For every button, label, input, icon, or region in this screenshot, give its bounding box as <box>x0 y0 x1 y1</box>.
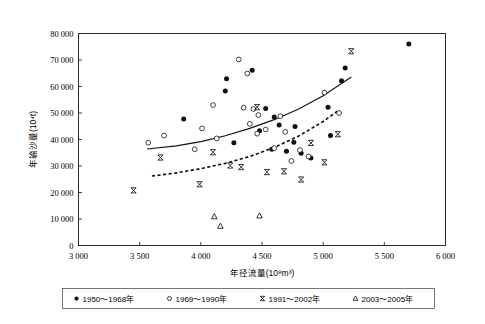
y-tick-label: 70 000 <box>50 55 73 65</box>
data-point <box>181 117 186 122</box>
y-tick-label: 20 000 <box>50 188 73 198</box>
data-point <box>212 214 218 219</box>
data-point <box>256 113 261 118</box>
legend-marker-filled-circle <box>74 296 78 300</box>
legend-item-label: 1991～2002年 <box>269 294 321 304</box>
data-point <box>284 149 289 154</box>
legend-item-3[interactable]: 1991～2002年 <box>260 294 320 304</box>
data-point <box>200 126 205 131</box>
data-point <box>283 129 288 134</box>
trendline-upper-trend <box>147 77 351 149</box>
x-axis-tick-labels: 3 0003 5004 0004 5005 0005 5006 000 <box>69 251 455 261</box>
data-point <box>281 169 286 174</box>
x-tick-label: 5 500 <box>375 251 394 261</box>
data-point <box>406 42 411 47</box>
legend-marker-open-circle <box>167 296 171 300</box>
legend-item-2[interactable]: 1969～1990年 <box>167 294 227 304</box>
x-tick-label: 3 500 <box>130 251 149 261</box>
data-point <box>326 105 331 110</box>
data-point <box>239 164 244 169</box>
series-2 <box>146 57 342 163</box>
series-3 <box>131 49 354 193</box>
data-point <box>322 160 327 165</box>
data-point <box>308 140 313 145</box>
y-tick-label: 60 000 <box>50 82 73 92</box>
x-axis-ticks <box>140 242 385 246</box>
y-tick-label: 80 000 <box>50 29 73 39</box>
chart-figure: 010 00020 00030 00040 00050 00060 00070 … <box>0 0 485 324</box>
y-tick-label: 30 000 <box>50 161 73 171</box>
legend-item-label: 2003～2005年 <box>362 294 414 304</box>
data-point <box>247 121 252 126</box>
y-axis-ticks <box>79 34 83 246</box>
series-4 <box>212 213 263 228</box>
data-point <box>146 140 151 145</box>
data-point <box>278 114 283 119</box>
plot-frame <box>79 34 446 246</box>
plot-area-border <box>79 34 446 246</box>
legend: 1950～1968年1969～1990年1991～2002年2003～2005年 <box>63 289 435 309</box>
data-point <box>245 71 250 76</box>
data-point <box>322 90 327 95</box>
series-1 <box>181 42 411 161</box>
data-point <box>263 127 268 132</box>
data-point <box>224 76 229 81</box>
data-point <box>289 159 294 164</box>
data-points <box>131 42 411 229</box>
x-tick-label: 4 500 <box>252 251 271 261</box>
scatter-plot-svg: 010 00020 00030 00040 00050 00060 00070 … <box>0 0 485 324</box>
data-point <box>223 89 228 94</box>
data-point <box>335 132 340 137</box>
data-point <box>162 133 167 138</box>
data-point <box>250 68 255 73</box>
data-point <box>337 111 342 116</box>
data-point <box>298 148 303 153</box>
data-point <box>211 103 216 108</box>
data-point <box>272 114 277 119</box>
data-point <box>231 140 236 145</box>
x-axis-title: 年径流量(10⁸m³) <box>230 268 295 278</box>
x-tick-label: 5 000 <box>314 251 333 261</box>
data-point <box>158 155 163 160</box>
x-tick-label: 3 000 <box>69 251 88 261</box>
legend-item-label: 1969～1990年 <box>176 294 228 304</box>
y-tick-label: 10 000 <box>50 214 73 224</box>
data-point <box>214 136 219 141</box>
y-tick-label: 50 000 <box>50 108 73 118</box>
data-point <box>277 122 282 127</box>
data-point <box>339 78 344 83</box>
data-point <box>228 163 233 168</box>
data-point <box>197 182 202 187</box>
data-point <box>343 65 348 70</box>
data-point <box>291 140 296 145</box>
data-point <box>349 49 354 54</box>
y-tick-label: 0 <box>69 241 73 251</box>
data-point <box>299 177 304 182</box>
data-point <box>328 133 333 138</box>
data-point <box>131 188 136 193</box>
x-tick-label: 6 000 <box>436 251 455 261</box>
data-point <box>192 147 197 152</box>
data-point <box>255 131 260 136</box>
data-point <box>236 57 241 62</box>
data-point <box>210 150 215 155</box>
data-point <box>272 146 277 151</box>
data-point <box>293 124 298 129</box>
legend-item-1[interactable]: 1950～1968年 <box>74 294 134 304</box>
y-tick-label: 40 000 <box>50 135 73 145</box>
data-point <box>218 223 224 228</box>
data-point <box>306 154 311 159</box>
y-axis-title: 年输沙量(10⁴t) <box>28 111 38 168</box>
legend-item-label: 1950～1968年 <box>83 294 135 304</box>
legend-item-4[interactable]: 2003～2005年 <box>353 294 413 304</box>
x-tick-label: 4 000 <box>191 251 210 261</box>
data-point <box>241 105 246 110</box>
data-point <box>257 213 263 218</box>
data-point <box>263 106 268 111</box>
y-axis-tick-labels: 010 00020 00030 00040 00050 00060 00070 … <box>50 29 73 251</box>
data-point <box>264 169 269 174</box>
